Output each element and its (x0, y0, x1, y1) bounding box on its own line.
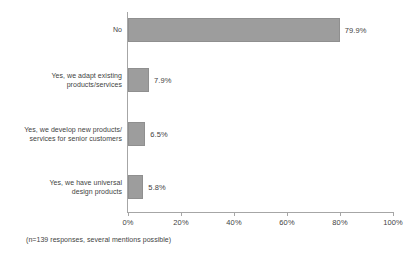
category-label: Yes, we have universal design products (0, 178, 122, 197)
category-label: Yes, we develop new products/ services f… (0, 125, 122, 144)
x-axis-line (127, 212, 394, 213)
bar (128, 175, 143, 199)
bar-row: 79.9% (128, 18, 393, 42)
bar-row: 5.8% (128, 175, 393, 199)
bar-row: 7.9% (128, 68, 393, 92)
bar (128, 122, 145, 146)
x-tick-label: 100% (383, 218, 403, 227)
bar-value-label: 6.5% (150, 130, 168, 139)
x-tick-mark (393, 212, 394, 216)
bar (128, 68, 149, 92)
bar-value-label: 79.9% (345, 26, 367, 35)
bar-value-label: 5.8% (148, 183, 166, 192)
bar-row: 6.5% (128, 122, 393, 146)
x-tick-mark (234, 212, 235, 216)
x-tick-mark (181, 212, 182, 216)
category-label: Yes, we adapt existing products/services (0, 71, 122, 90)
x-tick-mark (340, 212, 341, 216)
x-tick-label: 80% (332, 218, 347, 227)
plot-area: 79.9%7.9%6.5%5.8% (128, 12, 393, 212)
x-tick-label: 0% (122, 218, 133, 227)
x-tick-mark (128, 212, 129, 216)
x-tick-label: 20% (173, 218, 188, 227)
x-tick-label: 60% (279, 218, 294, 227)
x-tick-label: 40% (226, 218, 241, 227)
x-tick-mark (287, 212, 288, 216)
bar-value-label: 7.9% (154, 76, 172, 85)
chart-annotation: (n=139 responses, several mentions possi… (26, 236, 171, 243)
category-label: No (0, 25, 122, 35)
bar (128, 18, 340, 42)
bar-chart: 0%20%40%60%80%100% 79.9%7.9%6.5%5.8% NoY… (0, 0, 415, 255)
